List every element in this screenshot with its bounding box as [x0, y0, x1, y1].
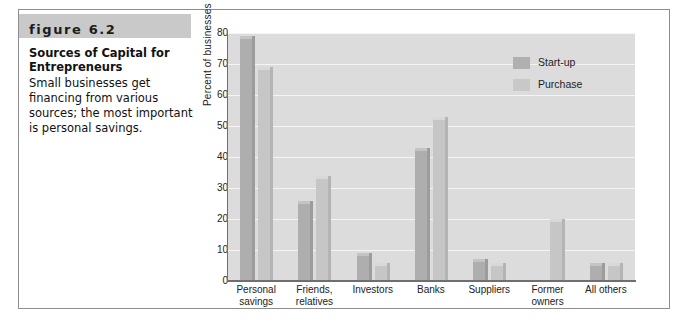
bar — [240, 36, 255, 281]
legend-swatch-startup — [513, 57, 530, 69]
x-tick-label-line: savings — [239, 296, 273, 307]
bar — [590, 263, 605, 282]
bar — [316, 176, 331, 281]
bar-chart: Percent of businesses 01020304050607080 … — [200, 10, 670, 308]
bar — [415, 148, 430, 281]
bar-group — [519, 33, 577, 281]
bar — [550, 219, 565, 281]
bar-group — [228, 33, 286, 281]
bar-group — [403, 33, 461, 281]
x-tick-label-line: relatives — [296, 296, 333, 307]
x-tick-label-line: All others — [585, 284, 627, 295]
legend-label-startup: Start-up — [538, 56, 575, 68]
bar — [608, 263, 623, 282]
y-tick-label: 70 — [206, 59, 228, 69]
legend-swatch-purchase — [513, 79, 530, 91]
y-tick-label: 40 — [206, 152, 228, 162]
bar — [298, 201, 313, 282]
y-tick-label: 30 — [206, 183, 228, 193]
bar-group — [286, 33, 344, 281]
bar — [433, 117, 448, 281]
x-tick-label: All others — [569, 284, 643, 296]
figure-title-line-2: Entrepreneurs — [29, 60, 122, 74]
legend-label-purchase: Purchase — [538, 78, 582, 90]
y-tick-label: 80 — [206, 28, 228, 38]
figure-title-line-1: Sources of Capital for — [29, 46, 170, 60]
x-tick-label-line: Former — [531, 284, 563, 295]
bar-group — [345, 33, 403, 281]
figure-title: Sources of Capital for Entrepreneurs — [29, 46, 189, 74]
x-tick-label-line: Investors — [352, 284, 393, 295]
bar — [473, 259, 488, 281]
y-tick-label: 50 — [206, 121, 228, 131]
figure-number-label: figure 6.2 — [29, 22, 116, 37]
y-tick-label: 20 — [206, 214, 228, 224]
x-tick-label-line: Banks — [417, 284, 445, 295]
bar — [258, 67, 273, 281]
bar — [375, 263, 390, 282]
x-tick-label-line: Personal — [236, 284, 275, 295]
x-tick-label-line: owners — [531, 296, 563, 307]
y-tick-label: 10 — [206, 245, 228, 255]
x-axis-tick-labels: PersonalsavingsFriends,relativesInvestor… — [227, 284, 636, 314]
figure-number-band: figure 6.2 — [19, 14, 191, 38]
bar-group — [578, 33, 635, 281]
x-axis-line — [227, 280, 636, 282]
figure-caption-panel: figure 6.2 Sources of Capital for Entrep… — [19, 10, 201, 308]
bar-group — [461, 33, 519, 281]
bar — [357, 253, 372, 281]
figure-description: Small businesses get financing from vari… — [29, 76, 197, 136]
y-tick-label: 60 — [206, 90, 228, 100]
x-tick-label-line: Friends, — [296, 284, 332, 295]
plot-area: Start-up Purchase — [227, 33, 635, 281]
x-tick-label-line: Suppliers — [468, 284, 510, 295]
bar — [491, 263, 506, 282]
